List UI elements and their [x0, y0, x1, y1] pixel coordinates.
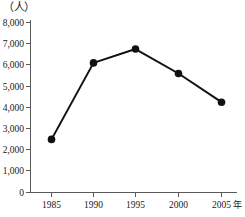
ytick-label-2000: 2,000: [3, 145, 25, 155]
ytick-label-4000: 4,000: [3, 103, 25, 113]
ytick-label-7000: 7,000: [3, 39, 25, 49]
xtick-label-1985: 1985: [42, 200, 61, 210]
x-axis-ticks: [52, 193, 222, 198]
chart-plot-area: 8,000 7,000 6,000 5,000 4,000 3,000 2,00…: [0, 0, 245, 217]
y-axis-tick-labels: 8,000 7,000 6,000 5,000 4,000 3,000 2,00…: [3, 18, 25, 198]
ytick-label-3000: 3,000: [3, 124, 25, 134]
data-point-1990: [90, 59, 98, 67]
line-chart: （人） 8,000 7,000 6,000 5,000 4,000 3,000 …: [0, 0, 245, 217]
ytick-label-5000: 5,000: [3, 82, 25, 92]
xtick-label-1995: 1995: [126, 200, 145, 210]
ytick-label-0: 0: [19, 188, 24, 198]
ytick-label-6000: 6,000: [3, 60, 25, 70]
data-point-1995: [132, 45, 140, 53]
data-series-line: [52, 49, 222, 139]
data-point-2005: [218, 98, 226, 106]
data-series-markers: [48, 45, 226, 143]
y-axis-ticks: [26, 23, 31, 193]
xtick-label-1990: 1990: [84, 200, 103, 210]
data-point-2000: [175, 70, 183, 78]
ytick-label-8000: 8,000: [3, 18, 25, 28]
x-axis-unit-label: 年: [233, 199, 242, 210]
xtick-label-2000: 2000: [169, 200, 188, 210]
data-point-1985: [48, 136, 56, 144]
ytick-label-1000: 1,000: [3, 166, 25, 176]
xtick-label-2005: 2005: [212, 200, 231, 210]
x-axis-tick-labels: 1985 1990 1995 2000 2005 年: [42, 199, 242, 210]
